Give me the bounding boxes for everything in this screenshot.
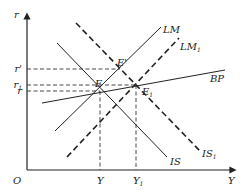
point-label-e1: E1 [141, 86, 153, 98]
curve-label-bp: BP [209, 73, 224, 84]
curve-label-lm: LM [162, 24, 181, 35]
point-label-e-prime: E' [116, 57, 127, 68]
curve-label-lm1: LM1 [179, 41, 201, 53]
curve-lm1 [67, 38, 179, 157]
y-tick-label-2: r [17, 85, 23, 96]
x-tick-label-1: Y1 [133, 175, 143, 187]
x-tick-label-0: Y [97, 175, 105, 186]
is-lm-bp-diagram: LMLM1ISIS1BPEE'E1r'r1rYY1rYO [0, 0, 240, 191]
curve-lm [55, 27, 161, 131]
guide-lines [27, 69, 136, 170]
x-axis-label: Y [228, 175, 236, 186]
origin-label: O [13, 175, 21, 186]
curve-label-is1: IS1 [201, 148, 217, 160]
y-axis-label: r [14, 9, 20, 20]
curve-label-is: IS [169, 156, 181, 167]
point-label-e: E [94, 78, 103, 89]
curve-bp [42, 70, 225, 103]
y-tick-label-0: r' [14, 63, 22, 74]
